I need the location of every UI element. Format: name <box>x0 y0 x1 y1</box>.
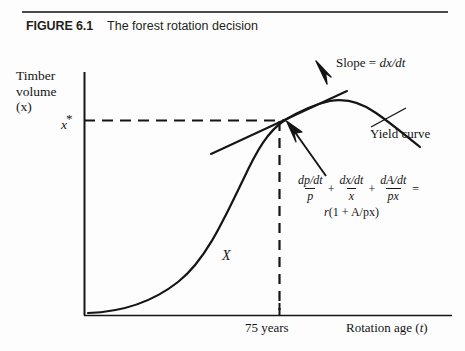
slope-expression: dx/dt <box>379 55 405 70</box>
equation-rhs-rest: (1 + A/px) <box>329 205 379 219</box>
x-axis-tick-label: 75 years <box>245 320 289 335</box>
yield-curve-label: Yield curve <box>370 126 430 141</box>
equation-arrow-shaft <box>292 128 326 176</box>
yield-curve-leader-line <box>371 108 406 127</box>
x-axis-label: Rotation age (t) <box>346 320 428 335</box>
x-axis-label-text: Rotation age ( <box>346 320 420 335</box>
y-axis-label-line1: Timber <box>16 68 55 83</box>
slope-prefix: Slope = <box>336 55 379 70</box>
equation-operator-2: + <box>367 182 376 197</box>
x-axis-label-close: ) <box>423 320 427 335</box>
equation-term-2-numerator: dx/dt <box>337 174 365 188</box>
equation-term-3-numerator: dA/dt <box>378 174 408 188</box>
y-axis-label-line3: (x) <box>16 99 57 115</box>
equation-line-1: dp/dt p + dx/dt x + dA/dt px = <box>296 174 419 203</box>
equation-term-3-denominator: px <box>386 188 401 203</box>
equation-equals-sign: = <box>410 182 419 197</box>
equation-term-2-denominator: x <box>347 188 356 203</box>
optimality-equation: dp/dt p + dx/dt x + dA/dt px = r(1 + A/p… <box>296 174 419 220</box>
equation-term-1-denominator: p <box>305 188 315 203</box>
equation-operator-1: + <box>327 182 336 197</box>
equation-line-2: r(1 + A/px) <box>296 205 419 220</box>
equation-term-1: dp/dt p <box>296 174 325 203</box>
equation-term-2: dx/dt x <box>337 174 365 203</box>
slope-arrow-icon <box>316 61 331 84</box>
slope-annotation: Slope = dx/dt <box>336 55 405 70</box>
figure-container: FIGURE 6.1The forest rotation decision T… <box>0 0 465 351</box>
curve-area-label: X <box>222 248 231 264</box>
equation-term-1-numerator: dp/dt <box>296 174 325 188</box>
y-axis-label-line2: volume <box>16 84 57 99</box>
equation-term-3: dA/dt px <box>378 174 408 203</box>
y-axis-tick-label-x-star: x* <box>61 111 73 132</box>
x-star-asterisk: * <box>66 111 73 126</box>
y-axis-label: Timber volume (x) <box>16 68 57 115</box>
